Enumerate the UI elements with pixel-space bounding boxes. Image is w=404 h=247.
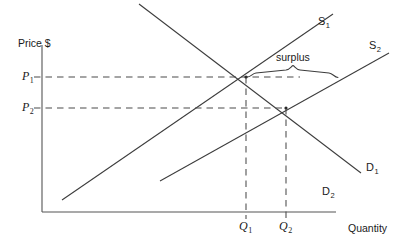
quantity-tick-label-q2: Q2 [279,220,292,232]
equilibrium-point-2 [284,106,287,109]
price-tick-p2-subscript: 2 [30,107,34,116]
quantity-tick-q2-subscript: 2 [288,226,292,235]
price-tick-label-p2: P2 [22,101,33,113]
quantity-tick-q2-base: Q [279,219,288,233]
price-tick-p2-base: P [22,100,29,114]
quantity-tick-q1-subscript: 1 [248,226,252,235]
curve-label-d2-subscript: 2 [330,191,334,200]
surplus-brace [247,66,338,78]
curve-label-s2: S2 [369,40,381,51]
supply-curve-s2 [160,53,389,181]
price-tick-label-p1: P1 [22,70,33,82]
quantity-tick-label-q1: Q1 [239,220,252,232]
quantity-tick-q1-base: Q [239,219,248,233]
curve-label-s2-base: S [369,39,376,51]
curve-label-d2-base: D [322,185,330,197]
curve-label-d1-base: D [366,161,374,173]
curve-label-s1-base: S [318,15,325,27]
surplus-annotation-label: surplus [276,52,310,63]
curve-label-d1-subscript: 1 [374,167,378,176]
x-axis-label: Quantity [348,223,387,234]
price-tick-p1-base: P [22,69,29,83]
figure-canvas: Price $ Quantity P1 P2 Q1 Q2 S1 S2 D1 D2… [0,0,404,247]
curve-label-s1: S1 [318,16,330,27]
axis-group [42,45,336,212]
supply-demand-diagram [0,0,404,247]
curve-label-d2: D2 [322,186,334,197]
price-tick-p1-subscript: 1 [30,76,34,85]
curve-label-s1-subscript: 1 [326,21,330,30]
y-axis-label: Price $ [18,38,51,49]
curve-label-s2-subscript: 2 [377,45,381,54]
curve-label-d1: D1 [366,162,378,173]
